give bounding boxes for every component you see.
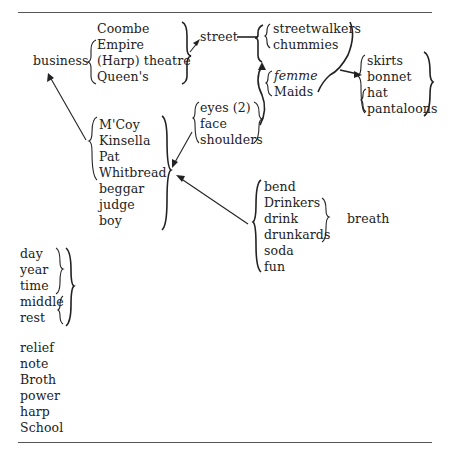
brace-maids-inner [266, 71, 272, 96]
word-pat: Pat [99, 149, 120, 165]
word-bonnet: bonnet [367, 69, 412, 85]
brace-drink-left [253, 180, 261, 272]
brace-body-left [193, 102, 199, 143]
top-rule [18, 12, 432, 13]
word-beggar: beggar [99, 181, 144, 197]
word-drunkards: drunkards [264, 227, 330, 243]
word-business: business [33, 53, 89, 69]
word-year: year [20, 262, 48, 278]
word-rest: rest [20, 310, 45, 326]
word-streetwalkers: streetwalkers [273, 21, 361, 37]
word-kinsella: Kinsella [99, 133, 150, 149]
word-coombe: Coombe [97, 21, 149, 37]
brace-theatres-left [88, 40, 96, 84]
word-judge: judge [99, 197, 135, 213]
word-chummies: chummies [273, 37, 338, 53]
word-drinkers: Drinkers [264, 195, 320, 211]
curve-body-to-maids [258, 65, 265, 125]
word-boy: boy [99, 213, 122, 229]
word-skirts: skirts [367, 53, 403, 69]
word-face: face [200, 116, 227, 132]
bottom-rule [18, 442, 432, 443]
word-queens: Queen's [97, 69, 149, 85]
word-breath: breath [347, 211, 390, 227]
word-street: street [200, 29, 238, 45]
word-day: day [20, 246, 43, 262]
brace-clothes-left [358, 55, 365, 113]
word-shoulders: shoulders [200, 132, 263, 148]
word-femme: femme [274, 68, 318, 84]
word-bend: bend [264, 179, 296, 195]
word-relief: relief [20, 340, 54, 356]
brace-street-left [255, 25, 263, 62]
word-middle: middle [20, 294, 64, 310]
brace-time-inner [56, 248, 63, 294]
word-soda: soda [264, 243, 294, 259]
word-fun: fun [264, 259, 285, 275]
brace-hat-inner [361, 89, 366, 112]
brace-street-inner [265, 24, 270, 48]
word-mccoy: M'Coy [99, 117, 140, 133]
word-eyes: eyes (2) [200, 100, 251, 116]
word-harp-theatre: (Harp) theatre [97, 53, 191, 69]
word-note: note [20, 356, 48, 372]
word-school: School [20, 420, 63, 436]
word-empire: Empire [97, 37, 144, 53]
word-harp: harp [20, 404, 50, 420]
word-broth: Broth [20, 372, 56, 388]
word-maids: Maids [274, 84, 313, 100]
word-drink: drink [264, 211, 298, 227]
brace-people-left [89, 117, 97, 180]
brace-time-outer [66, 248, 74, 326]
word-whitbread: Whitbread [99, 165, 167, 181]
word-hat: hat [367, 85, 388, 101]
word-time: time [20, 278, 49, 294]
word-pantaloons: pantaloons [367, 101, 438, 117]
word-power: power [20, 388, 60, 404]
